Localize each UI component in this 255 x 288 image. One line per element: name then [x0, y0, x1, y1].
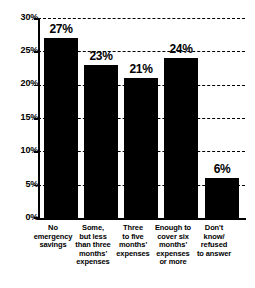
y-axis-tick: [34, 185, 38, 187]
bar-value-label-2: 21%: [124, 63, 158, 75]
bar-0: [44, 38, 78, 218]
bar-1: [84, 65, 118, 218]
bar-value-label-4: 6%: [205, 163, 239, 175]
bar-3: [164, 58, 198, 218]
y-axis-tick: [34, 18, 38, 20]
bar-4: [205, 178, 239, 218]
y-axis-tick-label: 20%: [6, 79, 38, 88]
plot-area: 27% 23% 21% 24% 6%: [38, 18, 245, 218]
x-axis-category-label-3: Enough to cover six months' expenses or …: [150, 224, 196, 267]
y-axis-tick: [34, 151, 38, 153]
bar-2: [124, 78, 158, 218]
y-axis-tick: [34, 51, 38, 53]
bar-value-label-1: 23%: [84, 50, 118, 62]
y-axis-tick: [34, 118, 38, 120]
bar-value-label-0: 27%: [44, 23, 78, 35]
y-axis-tick: [34, 217, 38, 219]
bar-chart: 30% 25% 20% 15% 10% 5% 0% 27% 23% 21%: [0, 0, 255, 288]
x-axis-line: [37, 218, 246, 220]
bar-value-label-3: 24%: [164, 43, 198, 55]
y-axis-line: [38, 18, 40, 218]
x-axis-category-label-4: Don't know/ refused to answer: [191, 224, 237, 258]
gridline-30: [38, 18, 245, 19]
y-axis-tick: [34, 85, 38, 87]
